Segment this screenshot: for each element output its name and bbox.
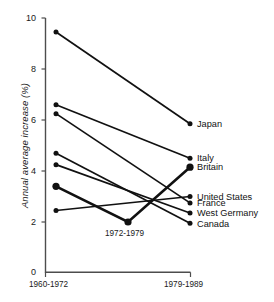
marker-canada-start (54, 151, 59, 156)
y-tick-label-10: 10 (14, 13, 36, 23)
marker-united-states-start (54, 208, 59, 213)
y-tick-label-4: 4 (14, 166, 36, 176)
y-tick-label-6: 6 (14, 115, 36, 125)
marker-britain-midpoint (124, 218, 131, 225)
marker-west-germany-end (188, 211, 193, 216)
marker-west-germany-start (54, 162, 59, 167)
marker-britain-start (52, 183, 59, 190)
series-label-france: France (197, 199, 226, 208)
series-label-west-germany: West Germany (197, 209, 258, 218)
marker-japan-start (54, 30, 59, 35)
series-label-japan: Japan (197, 120, 222, 129)
series-line-italy (56, 105, 190, 159)
marker-canada-end (188, 221, 193, 226)
series-label-britain: Britain (197, 163, 223, 172)
series-lines (56, 32, 190, 223)
y-tick-label-2: 2 (14, 217, 36, 227)
marker-united-states-end (188, 194, 193, 199)
series-label-canada: Canada (197, 220, 229, 229)
y-tick-label-8: 8 (14, 64, 36, 74)
marker-britain-end (186, 164, 193, 171)
x-tick-label-right: 1979-1989 (164, 280, 203, 289)
marker-italy-end (188, 156, 193, 161)
marker-france-start (54, 111, 59, 116)
y-tick-label-0: 0 (14, 267, 36, 277)
series-line-britain (56, 167, 190, 222)
marker-france-end (188, 200, 193, 205)
series-line-japan (56, 32, 190, 124)
axis-lines (42, 18, 191, 277)
marker-italy-start (54, 102, 59, 107)
marker-japan-end (188, 121, 193, 126)
series-line-united-states (56, 197, 190, 211)
chart-container: Annual average increase (%) 10 8 6 4 2 0… (0, 0, 274, 302)
midpoint-annotation-label: 1972-1979 (105, 229, 144, 238)
x-tick-label-left: 1960-1972 (29, 280, 68, 289)
chart-plot-area (0, 0, 274, 302)
